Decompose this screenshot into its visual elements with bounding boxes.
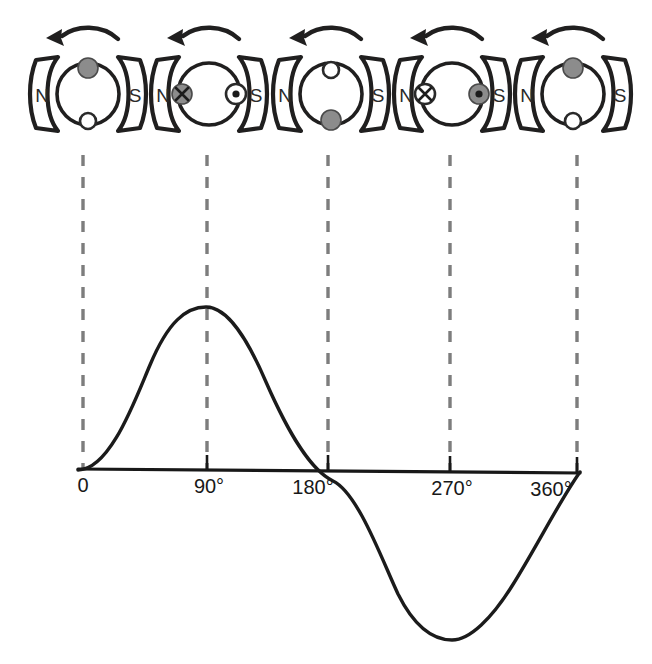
axis-label-180: 180° bbox=[292, 476, 333, 498]
conductor-bottom-2 bbox=[321, 110, 341, 130]
axis-tick-labels: 0 90° 180° 270° 360° bbox=[77, 474, 571, 500]
generator-sine-figure: N S N S bbox=[0, 0, 652, 664]
rotation-arrow-icon-2 bbox=[289, 28, 361, 46]
axis-label-360: 360° bbox=[530, 478, 571, 500]
generator-stage-2: N S bbox=[273, 28, 389, 131]
south-pole-label-1: S bbox=[250, 85, 263, 106]
south-pole-label-2: S bbox=[372, 85, 385, 106]
north-pole-label-1: N bbox=[156, 85, 170, 106]
axis-label-270: 270° bbox=[431, 477, 472, 499]
conductor-left-3 bbox=[415, 84, 435, 104]
rotation-arrow-icon-4 bbox=[531, 28, 603, 46]
conductor-top-4 bbox=[563, 58, 583, 78]
south-pole-label-3: S bbox=[493, 85, 506, 106]
conductor-right-3 bbox=[469, 84, 489, 104]
figure-canvas: N S N S bbox=[0, 0, 652, 664]
north-pole-label-0: N bbox=[35, 85, 49, 106]
generator-stage-1: N S bbox=[151, 28, 267, 131]
axis-label-90: 90° bbox=[194, 475, 224, 497]
conductor-left-1 bbox=[172, 84, 192, 104]
generator-stage-3: N S bbox=[394, 28, 510, 131]
north-pole-label-3: N bbox=[399, 85, 413, 106]
south-pole-label-4: S bbox=[614, 85, 627, 106]
rotation-arrow-icon-3 bbox=[410, 28, 482, 46]
north-pole-label-4: N bbox=[520, 85, 534, 106]
axis-label-0: 0 bbox=[77, 474, 88, 496]
north-pole-label-2: N bbox=[278, 85, 292, 106]
south-pole-label-0: S bbox=[129, 85, 142, 106]
conductor-bottom-0 bbox=[80, 113, 96, 129]
rotation-arrow-icon-0 bbox=[46, 28, 118, 46]
dashed-guide-lines bbox=[83, 155, 577, 472]
conductor-right-1 bbox=[226, 84, 246, 104]
x-axis bbox=[78, 455, 580, 473]
conductor-bottom-4 bbox=[565, 113, 581, 129]
generator-stage-4: N S bbox=[515, 28, 631, 131]
conductor-top-0 bbox=[78, 58, 98, 78]
generator-stage-0: N S bbox=[30, 28, 146, 131]
rotation-arrow-icon-1 bbox=[167, 28, 239, 46]
conductor-top-2 bbox=[323, 62, 339, 78]
